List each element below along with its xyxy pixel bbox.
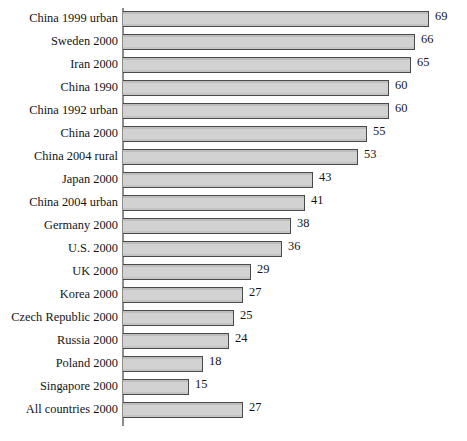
bar-value-label: 27 xyxy=(243,399,261,415)
bar-value-label: 18 xyxy=(203,353,221,369)
bar-container xyxy=(123,172,313,188)
category-label: U.S. 2000 xyxy=(0,238,118,261)
bar-chart: China 1999 urban69Sweden 200066Iran 2000… xyxy=(0,0,467,441)
bar-row: Czech Republic 200025 xyxy=(0,307,467,330)
bar-value-label: 41 xyxy=(305,192,323,208)
category-label: Poland 2000 xyxy=(0,353,118,376)
category-label: China 2000 xyxy=(0,123,118,146)
category-label: Korea 2000 xyxy=(0,284,118,307)
bar-container xyxy=(123,149,358,165)
bar-value-label: 24 xyxy=(229,330,247,346)
bar xyxy=(123,264,251,280)
bar-row: Sweden 200066 xyxy=(0,31,467,54)
bar xyxy=(123,57,411,73)
bar xyxy=(123,333,229,349)
category-label: All countries 2000 xyxy=(0,399,118,422)
bar-row: Russia 200024 xyxy=(0,330,467,353)
bar-value-label: 25 xyxy=(234,307,252,323)
bar-row: Germany 200038 xyxy=(0,215,467,238)
bar xyxy=(123,241,282,257)
bar xyxy=(123,126,367,142)
bar xyxy=(123,287,243,303)
bar-row: Poland 200018 xyxy=(0,353,467,376)
bar xyxy=(123,379,189,395)
bar xyxy=(123,356,203,372)
bar-container xyxy=(123,126,367,142)
category-label: Sweden 2000 xyxy=(0,31,118,54)
bar-row: China 200055 xyxy=(0,123,467,146)
bar-value-label: 29 xyxy=(251,261,269,277)
bar xyxy=(123,218,291,234)
category-label: Russia 2000 xyxy=(0,330,118,353)
category-label: China 1999 urban xyxy=(0,8,118,31)
bar-container xyxy=(123,264,251,280)
bar-container xyxy=(123,333,229,349)
bar-row: China 1992 urban60 xyxy=(0,100,467,123)
bar-container xyxy=(123,57,411,73)
bar-value-label: 38 xyxy=(291,215,309,231)
bar-container xyxy=(123,11,429,27)
category-label: China 1990 xyxy=(0,77,118,100)
category-label: China 2004 rural xyxy=(0,146,118,169)
bar-row: China 1999 urban69 xyxy=(0,8,467,31)
bar xyxy=(123,195,305,211)
plot-area: China 1999 urban69Sweden 200066Iran 2000… xyxy=(0,0,467,441)
bar-row: All countries 200027 xyxy=(0,399,467,422)
category-label: Germany 2000 xyxy=(0,215,118,238)
bar xyxy=(123,310,234,326)
bar-container xyxy=(123,402,243,418)
bar-value-label: 43 xyxy=(313,169,331,185)
bar-container xyxy=(123,103,389,119)
category-label: China 2004 urban xyxy=(0,192,118,215)
bar-container xyxy=(123,80,389,96)
bar-container xyxy=(123,287,243,303)
bar-row: China 199060 xyxy=(0,77,467,100)
bar-value-label: 15 xyxy=(189,376,207,392)
bar-container xyxy=(123,310,234,326)
bar-container xyxy=(123,218,291,234)
bar-value-label: 69 xyxy=(429,8,447,24)
bar xyxy=(123,11,429,27)
bar-container xyxy=(123,241,282,257)
bar-rows: China 1999 urban69Sweden 200066Iran 2000… xyxy=(0,8,467,422)
bar-row: Korea 200027 xyxy=(0,284,467,307)
bar-value-label: 55 xyxy=(367,123,385,139)
bar-row: China 2004 urban41 xyxy=(0,192,467,215)
bar-value-label: 66 xyxy=(415,31,433,47)
bar-container xyxy=(123,34,415,50)
bar xyxy=(123,80,389,96)
bar xyxy=(123,149,358,165)
bar-container xyxy=(123,195,305,211)
category-label: Singapore 2000 xyxy=(0,376,118,399)
bar-row: Japan 200043 xyxy=(0,169,467,192)
bar-value-label: 36 xyxy=(282,238,300,254)
bar xyxy=(123,172,313,188)
bar xyxy=(123,103,389,119)
category-label: Iran 2000 xyxy=(0,54,118,77)
category-label: UK 2000 xyxy=(0,261,118,284)
bar xyxy=(123,34,415,50)
category-label: China 1992 urban xyxy=(0,100,118,123)
bar-row: Iran 200065 xyxy=(0,54,467,77)
category-label: Czech Republic 2000 xyxy=(0,307,118,330)
bar-value-label: 60 xyxy=(389,100,407,116)
bar-value-label: 53 xyxy=(358,146,376,162)
bar-container xyxy=(123,379,189,395)
bar-row: U.S. 200036 xyxy=(0,238,467,261)
bar-container xyxy=(123,356,203,372)
bar-row: UK 200029 xyxy=(0,261,467,284)
bar-value-label: 27 xyxy=(243,284,261,300)
bar-value-label: 65 xyxy=(411,54,429,70)
category-label: Japan 2000 xyxy=(0,169,118,192)
bar xyxy=(123,402,243,418)
bar-value-label: 60 xyxy=(389,77,407,93)
bar-row: Singapore 200015 xyxy=(0,376,467,399)
bar-row: China 2004 rural53 xyxy=(0,146,467,169)
